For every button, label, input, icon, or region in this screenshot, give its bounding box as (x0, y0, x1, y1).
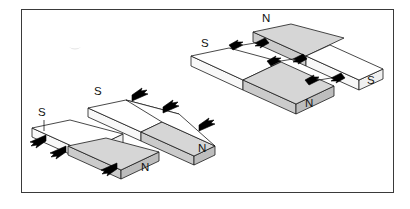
pole-label-tr-south-right: S (367, 75, 375, 87)
pole-label-bl-north: N (141, 162, 150, 174)
magnet-interaction-figure: .out{stroke:#1a1a1a;stroke-width:0.8;str… (0, 0, 410, 209)
pole-label-m-south: S (94, 86, 102, 98)
arrow-m-2 (163, 100, 179, 113)
scan-speck-artifact (69, 47, 81, 50)
arrow-tr-1 (229, 38, 269, 50)
arrow-m-1 (132, 88, 148, 101)
magnet-group-top-right (191, 24, 383, 114)
pole-label-tr-north-upper: N (262, 13, 271, 25)
pole-label-tr-south-left: S (201, 38, 209, 50)
pole-label-m-north: N (198, 143, 207, 155)
pole-label-bl-south: S (38, 107, 46, 119)
magnet-diagram-canvas: .out{stroke:#1a1a1a;stroke-width:0.8;str… (0, 0, 410, 209)
arrow-m-3 (199, 118, 215, 131)
pole-label-tr-north-lower: N (305, 98, 314, 110)
